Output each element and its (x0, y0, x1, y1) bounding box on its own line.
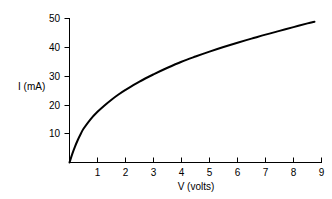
y-axis-ticks (65, 19, 70, 134)
x-tick-label-5: 5 (207, 167, 213, 178)
axes-group (69, 18, 322, 163)
data-curve-i-vs-v (70, 22, 315, 163)
x-tick-label-3: 3 (151, 167, 157, 178)
y-tick-label-20: 20 (49, 100, 61, 111)
y-tick-label-10: 10 (49, 128, 61, 139)
iv-characteristic-chart: 50 40 30 20 10 1 2 3 4 5 6 7 8 (0, 0, 332, 199)
x-tick-label-4: 4 (179, 167, 185, 178)
x-tick-label-2: 2 (123, 167, 129, 178)
y-axis-tick-labels: 50 40 30 20 10 (49, 13, 61, 139)
x-tick-label-8: 8 (291, 167, 297, 178)
x-tick-label-1: 1 (95, 167, 101, 178)
x-axis-title: V (volts) (178, 181, 215, 192)
y-tick-label-50: 50 (49, 13, 61, 24)
x-tick-label-6: 6 (235, 167, 241, 178)
y-tick-label-30: 30 (49, 71, 61, 82)
y-axis-title: I (mA) (18, 81, 45, 92)
y-tick-label-40: 40 (49, 42, 61, 53)
x-tick-label-9: 9 (319, 167, 325, 178)
chart-figure: 50 40 30 20 10 1 2 3 4 5 6 7 8 (0, 0, 332, 199)
x-axis-ticks (98, 158, 322, 163)
x-axis-tick-labels: 1 2 3 4 5 6 7 8 9 (95, 167, 325, 178)
x-tick-label-7: 7 (263, 167, 269, 178)
